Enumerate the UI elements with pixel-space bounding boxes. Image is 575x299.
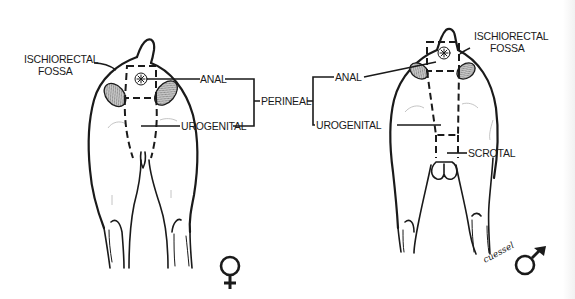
female-right-hock: [190, 232, 192, 268]
male-anal-label: ANAL: [335, 71, 362, 83]
male-scrotum: [432, 162, 457, 179]
male-anal-region-outline: [427, 42, 459, 71]
female-vulva: [141, 152, 146, 168]
male-urogenital-region-outline: [427, 71, 459, 158]
female-ischiorectal-label-line1: ISCHIORECTAL: [24, 53, 99, 65]
female-anal-label: ANAL: [200, 73, 227, 85]
male-ischiorectal-label-line1: ISCHIORECTAL: [474, 30, 549, 42]
female-inner-leg-right: [149, 160, 168, 268]
perineal-label: PERINEAL: [261, 95, 312, 107]
female-urogenital-region-outline: [125, 98, 157, 158]
male-scrotal-label: SCROTAL: [468, 147, 516, 159]
male-urogenital-label: UROGENITAL: [316, 119, 382, 131]
male-hindquarters: [307, 29, 497, 254]
male-inner-leg-left: [414, 165, 431, 253]
female-ischiorectal-fossa-left: [100, 79, 131, 110]
perineal-diagram: ISCHIORECTAL FOSSA ANAL UROGENITAL PERIN…: [0, 0, 575, 299]
female-hindquarters: [89, 39, 260, 268]
female-inner-leg-left: [129, 160, 141, 268]
male-ischiorectal-label-line2: FOSSA: [490, 42, 525, 54]
female-tail: [137, 39, 154, 63]
male-body-outline-left: [390, 50, 437, 228]
female-symbol-icon: [221, 257, 239, 289]
artist-signature: cuessel: [481, 240, 515, 265]
male-tail: [437, 29, 458, 50]
diagram-canvas: ISCHIORECTAL FOSSA ANAL UROGENITAL PERIN…: [0, 0, 575, 299]
female-urogenital-label: UROGENITAL: [181, 120, 247, 132]
female-ischiorectal-label-line2: FOSSA: [38, 65, 73, 77]
male-symbol-icon: [516, 246, 546, 274]
female-perineal-bracket: [225, 79, 260, 126]
female-body-outline-left: [89, 57, 137, 228]
